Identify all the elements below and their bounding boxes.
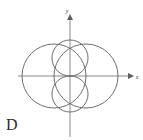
x-axis-arrow-icon	[128, 73, 134, 79]
y-axis-arrow-icon	[67, 14, 73, 20]
panel-label: D	[6, 116, 18, 134]
y-axis-label: y	[65, 8, 69, 14]
x-axis-label: x	[135, 74, 139, 80]
figure-panel: y x D	[0, 0, 143, 140]
polar-circles-plot: y x	[0, 0, 143, 140]
